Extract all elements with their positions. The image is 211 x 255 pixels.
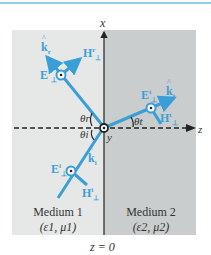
medium-1-name: Medium 1 — [13, 206, 103, 218]
medium-2-params: (ε2, μ2) — [106, 221, 196, 233]
incident-k-label: ^ki — [88, 152, 97, 167]
z-axis-label: z — [198, 124, 202, 135]
transmitted-e-label: Et⊥ — [141, 89, 157, 104]
medium-2-name: Medium 2 — [106, 206, 196, 218]
theta-i-label: θi — [80, 129, 88, 140]
theta-r-label: θr — [80, 113, 90, 124]
transmitted-h-label: Ht⊥ — [160, 112, 178, 127]
x-axis-label: x — [100, 17, 105, 29]
transmitted-k-label: ^kt — [166, 85, 175, 100]
y-axis-label: y — [107, 132, 112, 143]
reflected-k-label: ^kr — [41, 41, 51, 56]
incident-h-label: Hi⊥ — [82, 187, 99, 202]
theta-t-label: θt — [134, 116, 142, 127]
boundary-label: z = 0 — [90, 241, 115, 253]
incident-e-label: Ei⊥ — [51, 163, 67, 178]
reflected-h-label: Hr⊥ — [83, 47, 101, 62]
medium-1-params: (ε1, μ1) — [13, 221, 103, 233]
reflected-e-label: Er⊥ — [40, 69, 57, 84]
